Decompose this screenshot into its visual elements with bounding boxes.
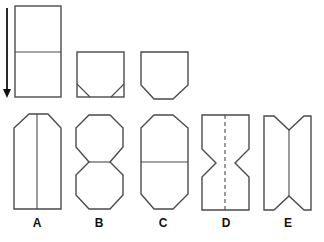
option-e-shape[interactable]	[264, 116, 311, 210]
option-c-shape[interactable]	[141, 115, 188, 209]
option-a-label: A	[27, 216, 47, 230]
step-2-folded-square	[77, 52, 124, 97]
option-e-label: E	[278, 216, 298, 230]
option-b-shape[interactable]	[76, 115, 123, 209]
option-b-label: B	[89, 216, 109, 230]
step-3-cut-shape	[141, 52, 188, 99]
step-1-rectangle	[15, 6, 61, 97]
fold-direction-arrow-icon	[3, 8, 11, 98]
option-a-shape[interactable]	[14, 114, 61, 209]
folding-diagram	[0, 0, 324, 242]
option-c-label: C	[153, 216, 173, 230]
option-d-label: D	[216, 216, 236, 230]
option-d-shape[interactable]	[202, 115, 249, 210]
